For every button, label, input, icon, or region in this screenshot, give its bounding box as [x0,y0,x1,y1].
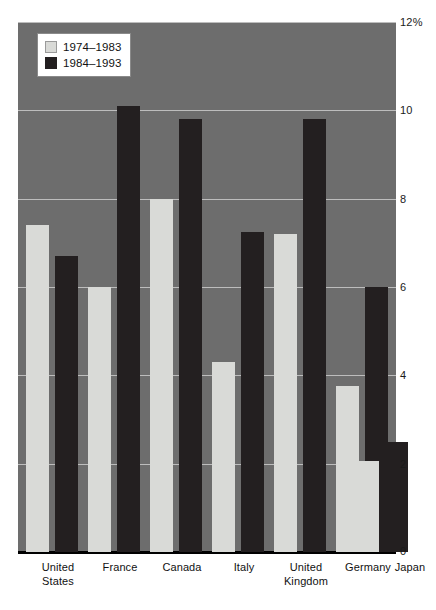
legend-item-label: 1974–1983 [63,41,121,53]
ytick-label-4: 4 [400,370,406,381]
bar-united-kingdom-1974-1983[interactable] [274,234,297,552]
bar-group-canada [150,22,204,552]
xlabel-line: Kingdom [264,574,348,588]
legend-item-label: 1984–1993 [63,57,121,69]
bar-france-1984-1993[interactable] [117,106,140,552]
bar-group-italy [212,22,266,552]
bar-group-france [88,22,142,552]
bar-chart-figure: 12% 10 8 6 4 2 0 United States France Ca… [0,0,436,610]
xlabel-line: States [16,574,100,588]
legend-item-1974-1983[interactable]: 1974–1983 [45,39,121,55]
bar-japan-1974-1983[interactable] [356,461,379,552]
ytick-label-12: 12% [400,17,423,28]
bar-france-1974-1983[interactable] [88,287,111,552]
bar-group-united-states [26,22,80,552]
legend-swatch-icon [45,41,57,53]
legend-item-1984-1993[interactable]: 1984–1993 [45,55,121,71]
bar-canada-1974-1983[interactable] [150,199,173,552]
ytick-label-6: 6 [400,282,406,293]
ytick-label-10: 10 [400,105,413,116]
bar-united-kingdom-1984-1993[interactable] [303,119,326,552]
bar-united-states-1984-1993[interactable] [55,256,78,552]
legend-swatch-icon [45,57,57,69]
chart-legend: 1974–1983 1984–1993 [37,33,131,77]
bar-italy-1984-1993[interactable] [241,232,264,552]
ytick-label-2: 2 [400,459,406,470]
ytick-label-8: 8 [400,194,406,205]
bar-italy-1974-1983[interactable] [212,362,235,552]
xlabel-line: Japan [384,560,436,574]
bars-container [18,22,396,552]
bar-united-states-1974-1983[interactable] [26,225,49,552]
bar-canada-1984-1993[interactable] [179,119,202,552]
ytick-label-0: 0 [400,546,406,557]
bar-group-united-kingdom [274,22,328,552]
xlabel-japan: Japan [384,560,436,574]
